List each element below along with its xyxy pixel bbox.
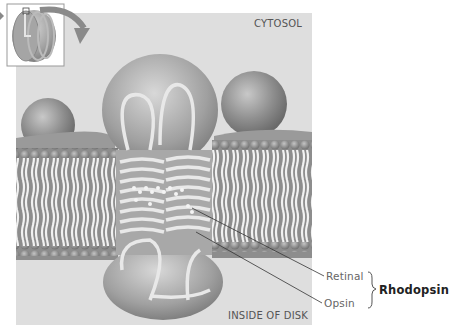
opsin-label: Opsin (324, 297, 355, 309)
rhodopsin-label: Rhodopsin (379, 283, 449, 297)
rhodopsin-protein (102, 54, 223, 320)
cytosol-label: CYTOSOL (254, 18, 302, 29)
lipid-bilayer-left (16, 148, 118, 260)
retinal-label: Retinal (326, 270, 364, 282)
right-protein-sphere (221, 71, 287, 137)
lipid-bilayer-right (212, 140, 312, 258)
inside-of-disk-label: INSIDE OF DISK (228, 310, 308, 321)
inset-left-arrow-icon (0, 12, 4, 20)
rhodopsin-brace-icon (368, 272, 376, 308)
inset-thumbnail (7, 4, 64, 66)
